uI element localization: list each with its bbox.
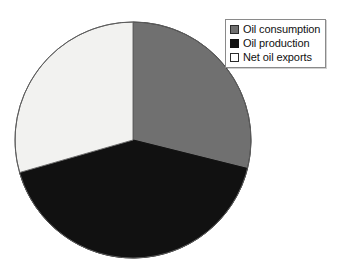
pie-slice-group — [15, 22, 251, 258]
chart-legend: Oil consumptionOil productionNet oil exp… — [225, 19, 326, 68]
legend-item[interactable]: Net oil exports — [230, 51, 320, 64]
legend-item-label: Oil production — [243, 37, 309, 50]
legend-swatch-icon — [230, 53, 239, 62]
legend-item-label: Net oil exports — [243, 51, 312, 64]
legend-item[interactable]: Oil production — [230, 37, 320, 50]
legend-swatch-icon — [230, 25, 239, 34]
chart-canvas: Oil consumptionOil productionNet oil exp… — [0, 0, 352, 272]
legend-item[interactable]: Oil consumption — [230, 23, 320, 36]
legend-item-label: Oil consumption — [243, 23, 320, 36]
legend-swatch-icon — [230, 39, 239, 48]
